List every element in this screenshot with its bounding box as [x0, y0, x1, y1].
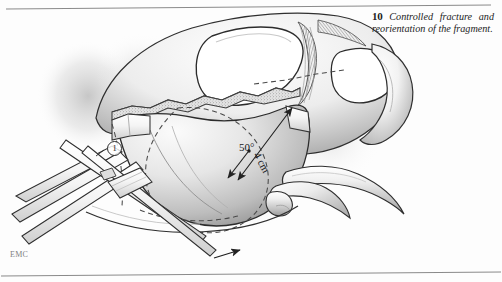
- figure-caption: 10 Controlled fracture and reorientation…: [372, 10, 494, 36]
- ramus-tip: [266, 191, 292, 216]
- figure-page: 50° 4 cm 1 10 Controlled fracture and re…: [0, 0, 502, 282]
- figure-caption-text: Controlled fracture and reorientation of…: [372, 11, 494, 34]
- callout-marker-1: 1: [107, 141, 122, 156]
- artist-signature: EMC: [10, 250, 28, 259]
- figure-number: 10: [372, 10, 383, 22]
- angle-measurement-label: 50°: [239, 141, 254, 153]
